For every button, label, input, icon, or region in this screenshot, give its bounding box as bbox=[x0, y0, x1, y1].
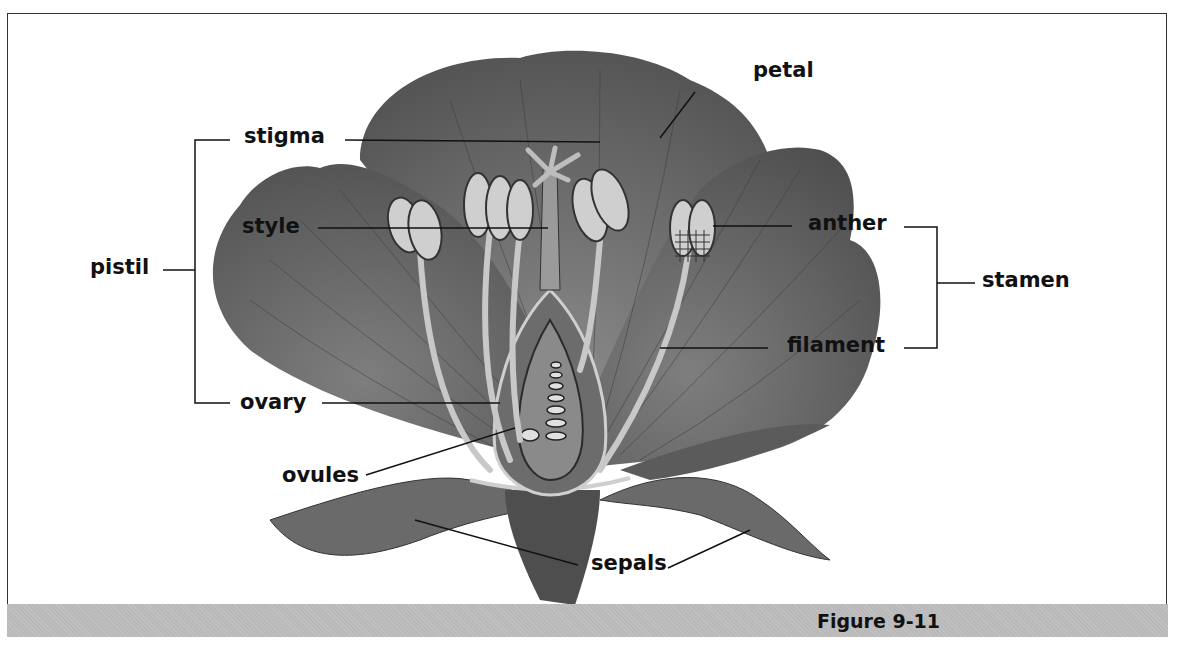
label-ovary: ovary bbox=[240, 392, 306, 413]
style-shape bbox=[540, 170, 560, 290]
label-anther: anther bbox=[808, 213, 887, 234]
label-filament: filament bbox=[787, 335, 885, 356]
sepal-right bbox=[600, 478, 830, 561]
caption-bar bbox=[7, 604, 1168, 637]
label-stigma: stigma bbox=[244, 126, 325, 147]
figure-caption: Figure 9-11 bbox=[817, 610, 940, 632]
label-ovules: ovules bbox=[282, 465, 359, 486]
label-sepals: sepals bbox=[591, 553, 667, 574]
label-pistil: pistil bbox=[90, 257, 149, 278]
label-petal: petal bbox=[753, 60, 814, 81]
receptacle bbox=[505, 490, 600, 605]
label-style: style bbox=[242, 216, 300, 237]
label-stamen: stamen bbox=[982, 270, 1070, 291]
flower-illustration bbox=[0, 0, 1178, 646]
